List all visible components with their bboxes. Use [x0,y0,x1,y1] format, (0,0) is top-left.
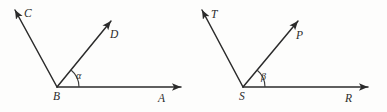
angle-label-beta: β [260,71,266,82]
angle-diagram-figure: B C D A α S T P R β [0,0,387,112]
ray-label-p: P [295,29,303,41]
vertex-label-b: B [53,90,60,102]
ray-label-c: C [24,7,32,19]
angle-label-alpha: α [76,70,82,81]
right-angle-diagram: S T P R β [202,8,368,104]
ray-bc-line [15,10,57,87]
ray-label-a: A [157,92,166,104]
ray-bd-line [57,21,111,87]
ray-st-line [202,10,243,87]
ray-label-t: T [211,8,219,20]
ray-label-r: R [344,92,352,104]
ray-label-d: D [109,28,119,40]
ray-sp-line [243,21,298,87]
left-angle-diagram: B C D A α [15,7,181,104]
vertex-label-s: S [239,90,245,102]
